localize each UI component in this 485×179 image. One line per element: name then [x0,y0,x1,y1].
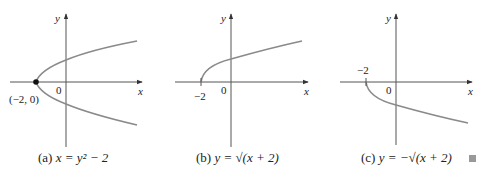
sqrt-curve [201,41,302,82]
y-axis-label: y [385,12,391,24]
x-axis-label: x [303,85,309,97]
caption-c: (c) y = −√(x + 2) [361,150,452,166]
caption-equation: x = y² − 2 [56,150,108,165]
vertex-point [33,79,39,85]
panel-a-graph: 0 x y (−2, 0) [9,12,143,147]
caption-a: (a) x = y² − 2 [38,150,108,166]
end-of-proof-icon [469,155,476,162]
neg-sqrt-curve [366,82,468,123]
caption-equation: y = −√(x + 2) [379,150,452,165]
vertex-label: (−2, 0) [9,93,39,106]
x-axis-label: x [467,85,473,97]
tick-label: −2 [357,64,369,76]
caption-prefix: (b) [196,150,211,165]
panel-b-graph: 0 −2 x y [175,12,309,147]
x-axis-label: x [137,85,143,97]
origin-label: 0 [56,84,62,96]
y-axis-label: y [54,12,60,24]
caption-equation: y = √(x + 2) [214,150,278,165]
y-axis-label: y [220,12,226,24]
panel-c-graph: 0 −2 x y [340,12,473,145]
caption-prefix: (a) [38,150,52,165]
tick-label: −2 [194,90,206,102]
caption-b: (b) y = √(x + 2) [196,150,279,166]
origin-label: 0 [386,84,392,96]
caption-prefix: (c) [361,150,375,165]
parabola-curve [36,41,137,125]
origin-label: 0 [221,84,227,96]
